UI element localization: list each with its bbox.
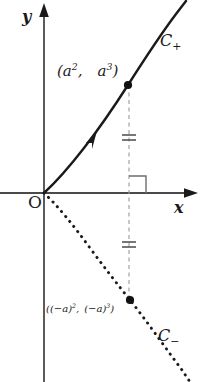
y-axis-label: y bbox=[22, 9, 31, 25]
right-angle-marker-icon bbox=[129, 176, 146, 193]
upper-point-close-paren: ) bbox=[112, 62, 118, 80]
x-axis-label: x bbox=[174, 200, 184, 216]
curve-upper-label: C+ bbox=[160, 33, 181, 49]
lower-point-close-paren: ) bbox=[110, 303, 114, 314]
curve-upper-branch bbox=[44, 1, 186, 193]
curve-direction-arrow-icon bbox=[86, 131, 97, 149]
lower-point-x-base: −a) bbox=[54, 303, 72, 314]
figure-canvas bbox=[0, 0, 201, 382]
lower-point-y-base: −a) bbox=[88, 303, 106, 314]
curve-lower-branch bbox=[44, 193, 190, 382]
lower-point-coordinate-label: ((−a)2, (−a)3) bbox=[46, 304, 114, 314]
x-axis-arrow-icon bbox=[184, 188, 198, 198]
curve-lower-label-sub: − bbox=[170, 335, 179, 348]
point-marker-upper bbox=[124, 81, 132, 89]
upper-point-coordinate-label: (a2, a3) bbox=[57, 64, 118, 79]
curve-upper-label-base: C bbox=[160, 31, 172, 50]
y-axis-arrow-icon bbox=[39, 3, 49, 17]
lower-point-open-paren: (( bbox=[46, 303, 54, 314]
point-marker-lower bbox=[126, 296, 134, 304]
upper-point-separator: , bbox=[78, 62, 98, 80]
curve-upper-label-sub: + bbox=[172, 40, 181, 53]
semicubical-parabola-figure: y x O C+ C− (a2, a3) ((−a)2, (−a)3) bbox=[0, 0, 201, 382]
curve-lower-label: C− bbox=[158, 328, 179, 344]
lower-point-separator: , ( bbox=[76, 303, 88, 314]
curve-lower-label-base: C bbox=[158, 326, 170, 345]
origin-label: O bbox=[28, 194, 42, 211]
upper-point-x-base: a bbox=[63, 62, 72, 80]
